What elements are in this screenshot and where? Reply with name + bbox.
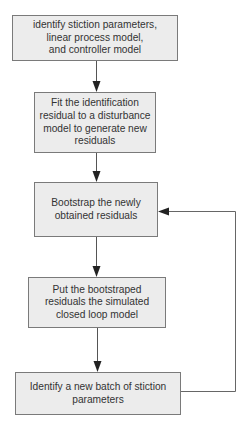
step-bootstrap-residuals: Bootstrap the newly obtained residuals	[34, 182, 158, 237]
step-identify-new-batch: Identify a new batch of stiction paramet…	[15, 372, 181, 415]
arrow-step2-to-step3	[93, 153, 101, 182]
step1-line3: and controller model	[33, 44, 157, 57]
step4-line2: residuals the simulated	[45, 296, 149, 309]
arrow-step3-to-step4	[93, 237, 101, 277]
arrow-step1-to-step2	[93, 61, 101, 92]
feedback-arrow-step5-to-step3	[158, 208, 236, 392]
step2-line1: Fit the identification	[40, 97, 151, 110]
step-simulate-closed-loop: Put the bootstraped residuals the simula…	[28, 277, 166, 328]
step3-line2: obtained residuals	[51, 210, 140, 223]
step1-line2: linear process model,	[33, 32, 157, 45]
step5-line1: Identify a new batch of stiction	[30, 381, 166, 394]
step5-line2: parameters	[30, 394, 166, 407]
step3-line1: Bootstrap the newly	[51, 197, 140, 210]
step2-line3: model to generate new	[40, 123, 151, 136]
step2-line4: residuals	[40, 135, 151, 148]
step2-line2: residual to a disturbance	[40, 110, 151, 123]
step4-line1: Put the bootstraped	[45, 284, 149, 297]
step1-line1: identify stiction parameters,	[33, 19, 157, 32]
step-identify-models: identify stiction parameters, linear pro…	[12, 15, 178, 61]
step-fit-disturbance-model: Fit the identification residual to a dis…	[34, 92, 156, 153]
arrow-step4-to-step5	[94, 328, 102, 372]
step4-line3: closed loop model	[45, 309, 149, 322]
